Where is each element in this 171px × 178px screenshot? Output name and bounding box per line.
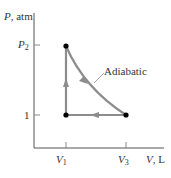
arrow-up-icon [63,78,69,87]
x-axis-label: V, L [146,154,165,165]
state-1-point [63,112,68,117]
y-tick-label-1: 1 [24,110,30,121]
adiabatic-label: Adiabatic [104,66,147,77]
label-leader [94,73,104,83]
state-2-point [63,43,68,48]
state-3-point [123,112,128,117]
arrow-left-icon [90,112,99,118]
x-tick-label-v1: V1 [56,154,67,167]
y-axis-label: P, atm [4,11,33,22]
y-tick-label-p2: P2 [18,39,29,52]
x-tick-label-v3: V3 [118,154,129,167]
pv-diagram [0,0,171,178]
